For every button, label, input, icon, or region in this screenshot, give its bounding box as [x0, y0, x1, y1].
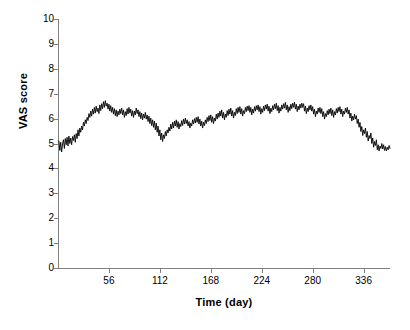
axis-lines: [58, 19, 390, 269]
vas-score-chart-figure: VAS score 109876543210 56112168224280336…: [0, 0, 410, 330]
plot-area: [0, 0, 410, 330]
tick-marks: [54, 20, 365, 273]
vas-score-line: [59, 101, 390, 152]
